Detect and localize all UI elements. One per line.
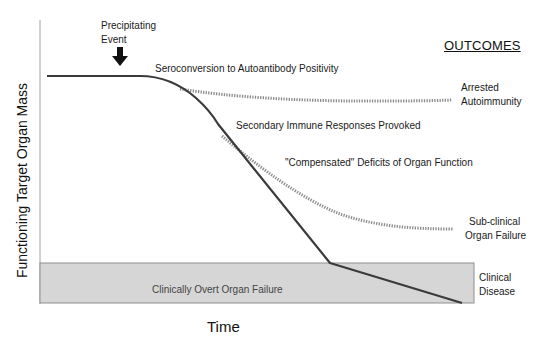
arrested-autoimmunity-curve	[180, 89, 452, 101]
down-arrow-icon	[112, 47, 128, 66]
outcomes-header: OUTCOMES	[444, 38, 521, 53]
y-axis-label: Functioning Target Organ Mass	[14, 83, 30, 278]
outcome-arrested-line2: Autoimmunity	[461, 96, 522, 108]
compensated-deficits-label: "Compensated" Deficits of Organ Function	[285, 157, 473, 169]
precipitating-event-label-line2: Event	[101, 34, 127, 46]
subclinical-failure-curve	[222, 136, 453, 229]
clinical-failure-zone	[40, 263, 474, 303]
secondary-responses-label: Secondary Immune Responses Provoked	[236, 120, 421, 132]
seroconversion-label: Seroconversion to Autoantibody Positivit…	[155, 63, 338, 75]
zone-label: Clinically Overt Organ Failure	[152, 284, 283, 295]
outcome-arrested-line1: Arrested	[461, 82, 499, 94]
x-axis-label: Time	[207, 318, 240, 335]
outcome-subclinical-line1: Sub-clinical	[469, 216, 520, 228]
outcome-clinical-line1: Clinical	[479, 272, 511, 284]
outcome-clinical-line2: Disease	[479, 286, 515, 298]
precipitating-event-label-line1: Precipitating	[101, 20, 156, 32]
outcome-subclinical-line2: Organ Failure	[465, 230, 526, 242]
